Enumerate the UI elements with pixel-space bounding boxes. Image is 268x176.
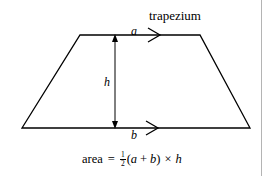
- formula-term-h: h: [176, 153, 182, 166]
- height-label-h: h: [104, 76, 110, 88]
- trapezium-shape: [22, 35, 250, 128]
- formula-close-paren: ): [156, 153, 160, 166]
- formula-one-half-fraction: 1 2: [120, 151, 126, 168]
- formula-plus-sign: +: [140, 153, 147, 166]
- formula-term-a: a: [131, 153, 137, 166]
- area-formula: area = 1 2 ( a + b ) × h: [82, 151, 182, 168]
- fraction-denominator: 2: [120, 159, 126, 168]
- formula-times-sign: ×: [165, 153, 172, 166]
- trapezium-figure: trapezium a b h area = 1 2 ( a + b ) × h: [0, 0, 268, 176]
- fraction-numerator: 1: [120, 151, 126, 159]
- figure-title-label: trapezium: [149, 9, 201, 22]
- formula-equals-sign: =: [108, 153, 115, 166]
- bottom-side-label-b: b: [131, 129, 137, 141]
- top-side-label-a: a: [131, 25, 137, 37]
- page-right-border: [261, 0, 262, 176]
- formula-lead-text: area: [82, 153, 103, 166]
